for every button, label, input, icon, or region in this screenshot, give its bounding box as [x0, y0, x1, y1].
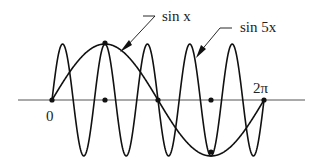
sine-diagram: sin x sin 5x 0 2π: [0, 0, 319, 162]
zero-label: 0: [46, 108, 54, 124]
two-pi-label: 2π: [253, 80, 269, 96]
sin-x-label: sin x: [162, 8, 191, 24]
sin-5x-label: sin 5x: [240, 19, 277, 35]
sin-5x-leader: [196, 28, 232, 58]
